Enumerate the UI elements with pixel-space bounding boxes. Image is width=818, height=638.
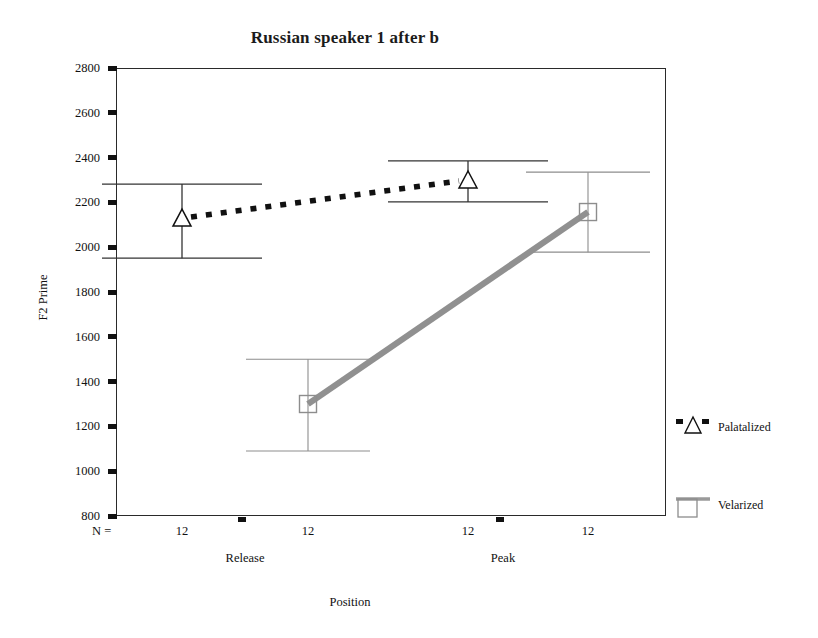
series-graphics bbox=[0, 0, 818, 638]
legend-square-icon bbox=[676, 490, 716, 520]
legend-item-label: Velarized bbox=[718, 498, 763, 513]
legend-item-label: Palatalized bbox=[718, 420, 771, 435]
legend: PalatalizedVelarized bbox=[676, 412, 818, 524]
chart-canvas: Russian speaker 1 after b 28002600240022… bbox=[0, 0, 818, 638]
legend-spacer bbox=[676, 446, 818, 490]
series-line-palatalized bbox=[191, 181, 459, 217]
marker-triangle-palatalized bbox=[173, 209, 191, 226]
legend-item[interactable]: Velarized bbox=[676, 490, 818, 524]
marker-triangle-palatalized bbox=[459, 171, 477, 188]
legend-triangle-icon bbox=[676, 412, 716, 442]
series-line-velarized bbox=[308, 212, 588, 404]
legend-item[interactable]: Palatalized bbox=[676, 412, 818, 446]
